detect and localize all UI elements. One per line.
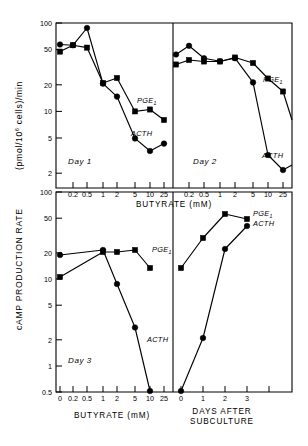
subculture-series-acth xyxy=(178,223,250,394)
day1-series-pge1 xyxy=(57,43,166,123)
day1-label-pge1: PGE1 xyxy=(137,96,157,106)
pge1-base: PGE xyxy=(137,96,154,105)
y-axis-title-text: cAMP PRODUCTION RATE xyxy=(14,208,24,330)
data-point xyxy=(57,274,62,279)
data-point xyxy=(280,89,285,94)
data-point xyxy=(147,388,153,394)
data-point xyxy=(147,265,152,270)
data-point xyxy=(222,211,227,216)
data-point xyxy=(114,94,120,100)
data-point xyxy=(280,167,286,173)
panel-label-day2: Day 2 xyxy=(193,157,217,166)
x-tick-day3-25: 25 xyxy=(160,394,168,403)
x-tick-day3-5: 5 xyxy=(133,394,137,403)
y-tick-upper-10: 10 xyxy=(44,107,52,116)
data-point xyxy=(217,59,222,64)
y-axis-title: cAMP PRODUCTION RATE (pmol/106 cells)/mi… xyxy=(14,81,24,330)
data-point xyxy=(147,148,153,154)
data-point xyxy=(200,235,205,240)
panel-label-day1: Day 1 xyxy=(68,157,92,166)
pge1-sub: 1 xyxy=(280,79,283,85)
y-tick-upper-2: 2 xyxy=(48,169,52,178)
data-point xyxy=(232,55,237,60)
y-tick-upper-100: 100 xyxy=(40,19,52,28)
data-point xyxy=(100,80,105,85)
x-tick-day1-1: 1 xyxy=(101,190,105,199)
subculture-label-acth: ACTH xyxy=(252,219,275,228)
x-tick-day2-25: 25 xyxy=(279,190,287,199)
data-point xyxy=(222,246,228,252)
x-tick-day3-0: 0 xyxy=(58,394,62,403)
x-tick-days-2: 2 xyxy=(223,394,227,403)
x-tick-day1-2: 2 xyxy=(115,190,119,199)
data-point xyxy=(161,117,166,122)
data-point xyxy=(186,43,192,49)
data-point xyxy=(178,388,184,394)
upper-right-x-axis: 0.2 0.5 1 2 5 10 25 xyxy=(184,182,287,199)
y-tick-lower-1: 1 xyxy=(48,362,52,371)
subculture-label-pge1: PGE1 xyxy=(253,209,273,219)
y-axis-title-units: (pmol/106 cells)/min xyxy=(14,81,24,170)
data-point xyxy=(114,75,119,80)
data-point xyxy=(173,62,178,67)
x-tick-day1-0.2: 0.2 xyxy=(68,190,78,199)
data-point xyxy=(147,107,152,112)
data-point xyxy=(200,335,206,341)
y-units-pre: (pmol/10 xyxy=(14,131,24,170)
data-point xyxy=(114,281,120,287)
x-tick-day2-2: 2 xyxy=(233,190,237,199)
pge1-base: PGE xyxy=(253,209,270,218)
x-tick-day2-1: 1 xyxy=(218,190,222,199)
y-tick-lower-10: 10 xyxy=(44,275,52,284)
day2-series-pge1 xyxy=(173,55,292,120)
x-tick-day1-10: 10 xyxy=(146,190,154,199)
data-point xyxy=(114,249,119,254)
mid-x-axis-title: BUTYRATE (mM) xyxy=(136,200,212,209)
data-point xyxy=(84,45,89,50)
x-tick-day2-0.2: 0.2 xyxy=(184,190,194,199)
x-tick-day2-0.5: 0.5 xyxy=(199,190,209,199)
figure-svg: cAMP PRODUCTION RATE (pmol/106 cells)/mi… xyxy=(0,0,308,446)
data-point xyxy=(84,25,90,31)
bottom-x-axis-title-days-line2: SUBCULTURE xyxy=(190,417,254,426)
pge1-base: PGE xyxy=(152,245,169,254)
y-tick-lower-0.5: 0.5 xyxy=(42,388,52,397)
data-point xyxy=(178,265,183,270)
data-point xyxy=(201,59,206,64)
data-point xyxy=(132,109,137,114)
data-point xyxy=(57,42,63,48)
day2-label-pge1: PGE1 xyxy=(263,75,283,85)
y-tick-lower-2: 2 xyxy=(48,336,52,345)
day1-label-acth: ACTH xyxy=(130,129,153,138)
y-tick-lower-20: 20 xyxy=(44,249,52,258)
y-tick-upper-5: 5 xyxy=(48,134,52,143)
x-tick-day3-0.2: 0.2 xyxy=(68,394,78,403)
x-tick-day3-10: 10 xyxy=(146,394,154,403)
day3-label-acth: ACTH xyxy=(146,335,169,344)
data-point xyxy=(244,223,250,229)
x-tick-day1-25: 25 xyxy=(160,190,168,199)
lower-right-x-axis: 0 1 2 3 xyxy=(179,386,269,403)
y-tick-lower-100: 100 xyxy=(40,188,52,197)
x-tick-days-0: 0 xyxy=(179,394,183,403)
y-units-post: cells)/min xyxy=(14,81,24,127)
y-tick-lower-5: 5 xyxy=(48,301,52,310)
data-point xyxy=(132,325,138,331)
pge1-base: PGE xyxy=(263,75,280,84)
x-tick-day1-0.5: 0.5 xyxy=(82,190,92,199)
data-point xyxy=(57,252,63,258)
y-tick-upper-50: 50 xyxy=(44,45,52,54)
upper-left-x-axis: 0.2 0.5 1 2 5 10 25 xyxy=(68,182,168,199)
x-tick-day2-10: 10 xyxy=(264,190,272,199)
data-point xyxy=(244,216,249,221)
bottom-x-axis-title-butyrate: BUTYRATE (mM) xyxy=(74,411,150,420)
data-point xyxy=(186,57,191,62)
x-tick-days-1: 1 xyxy=(201,394,205,403)
figure-container: cAMP PRODUCTION RATE (pmol/106 cells)/mi… xyxy=(0,0,308,446)
pge1-sub: 1 xyxy=(169,249,172,255)
data-point xyxy=(57,49,62,54)
data-point xyxy=(173,52,179,58)
y-tick-lower-50: 50 xyxy=(44,214,52,223)
lower-y-axis: 100 50 20 10 5 2 1 0.5 xyxy=(40,188,62,397)
panel-label-day3: Day 3 xyxy=(68,356,92,365)
